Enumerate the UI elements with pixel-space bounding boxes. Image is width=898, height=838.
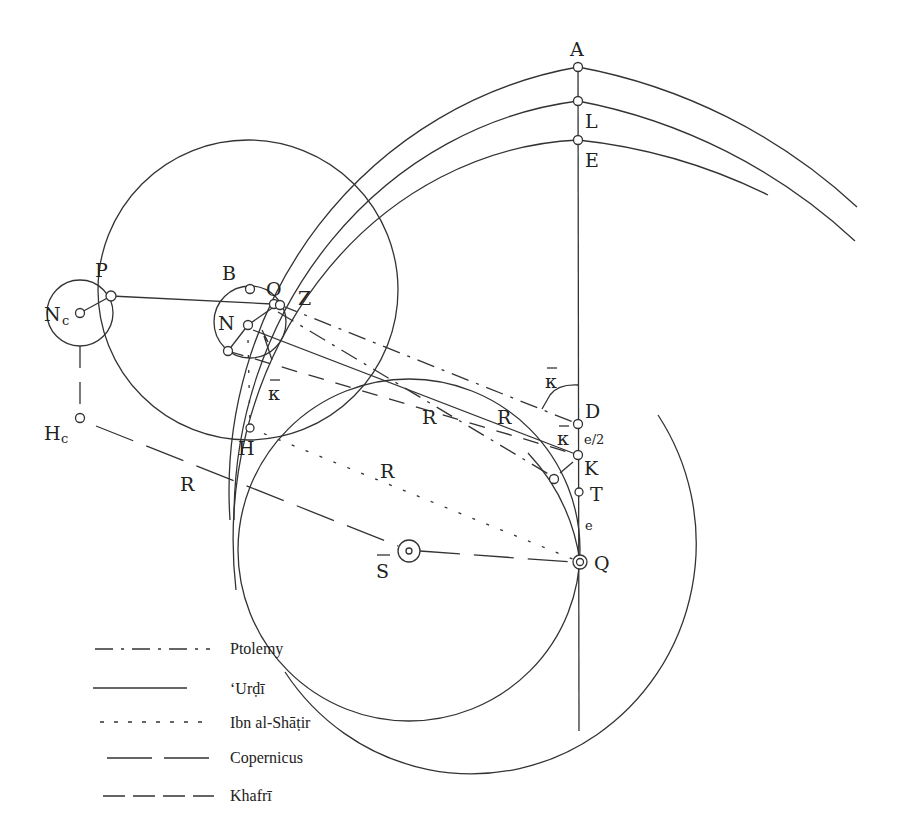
point-D bbox=[574, 420, 583, 429]
legend-label-copernicus: Copernicus bbox=[230, 749, 303, 767]
legend-label-ptolemy: Ptolemy bbox=[230, 640, 283, 658]
arc-through-K bbox=[528, 453, 580, 562]
point-B bbox=[246, 285, 255, 294]
point-lower-N bbox=[224, 347, 233, 356]
label-B: B bbox=[222, 262, 236, 284]
point-Q-inner bbox=[577, 559, 584, 566]
circle-around-Q bbox=[285, 415, 696, 774]
line-P-O bbox=[111, 296, 272, 304]
apsidal-line bbox=[578, 67, 579, 731]
label-K: K bbox=[584, 457, 599, 479]
arc-A bbox=[229, 67, 857, 520]
label-Hc-sub: c bbox=[61, 431, 68, 446]
planetary-model-diagram: A L E P B O Z N N c H c H κ κ κ D e/2 K … bbox=[0, 0, 898, 838]
arc-L bbox=[234, 101, 855, 520]
legend-label-urdi: ‘Urḍī bbox=[230, 680, 265, 697]
label-Q: Q bbox=[594, 552, 610, 574]
point-E bbox=[574, 136, 583, 145]
point-T bbox=[575, 488, 583, 496]
point-L bbox=[574, 97, 583, 106]
point-N bbox=[244, 321, 253, 330]
point-K bbox=[574, 451, 583, 460]
copernicus-line-S-Q bbox=[420, 551, 572, 562]
label-E: E bbox=[585, 149, 599, 171]
label-P: P bbox=[95, 259, 108, 281]
label-H: H bbox=[238, 437, 255, 459]
label-Hc: H bbox=[44, 422, 61, 444]
label-Z: Z bbox=[298, 287, 311, 309]
label-kappa-D: κ bbox=[545, 370, 557, 392]
label-R-2: R bbox=[497, 406, 512, 428]
label-e-half: e/2 bbox=[584, 432, 604, 447]
label-R-4: R bbox=[180, 473, 195, 495]
label-L: L bbox=[585, 110, 598, 132]
point-A bbox=[574, 63, 583, 72]
point-S-inner bbox=[406, 548, 412, 554]
label-D: D bbox=[585, 400, 600, 422]
pointer-K bbox=[560, 462, 573, 473]
legend-label-khafri: Khafrī bbox=[230, 787, 272, 804]
label-N: N bbox=[218, 312, 235, 334]
label-O: O bbox=[266, 278, 282, 300]
label-Nc-sub: c bbox=[62, 313, 69, 328]
arc-E bbox=[233, 140, 768, 590]
label-R-3: R bbox=[380, 460, 395, 482]
shatir-line-N-H bbox=[248, 340, 250, 424]
label-kappa-N: κ bbox=[268, 382, 280, 404]
point-Nc bbox=[76, 309, 85, 318]
legend-label-shatir: Ibn al-Shāṭir bbox=[230, 714, 311, 731]
ptolemy-line-Z-K bbox=[278, 312, 555, 478]
label-R-1: R bbox=[422, 406, 437, 428]
point-Z bbox=[276, 301, 285, 310]
label-T: T bbox=[590, 483, 603, 505]
label-kappa-K: κ bbox=[557, 427, 569, 449]
line-N-K bbox=[253, 330, 578, 455]
label-S: S bbox=[376, 560, 389, 582]
label-A: A bbox=[569, 38, 584, 60]
point-P bbox=[106, 291, 116, 301]
legend: Ptolemy ‘Urḍī Ibn al-Shāṭir Copernicus K… bbox=[93, 640, 311, 804]
point-H bbox=[246, 424, 254, 432]
point-Hc bbox=[76, 414, 85, 423]
point-near-K bbox=[550, 475, 559, 484]
label-e: e bbox=[585, 518, 593, 533]
label-Nc: N bbox=[44, 303, 61, 325]
